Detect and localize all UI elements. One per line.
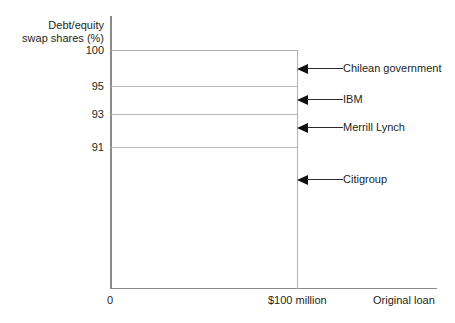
annotation-label: Merrill Lynch: [343, 121, 405, 134]
x-tick-hundred-million: $100 million: [268, 294, 327, 306]
gridline-91: [111, 147, 298, 148]
x-axis-line: [110, 288, 437, 289]
annotation-label: Chilean government: [343, 62, 441, 75]
x-axis-title: Original loan: [373, 294, 435, 306]
x-tick-zero: 0: [107, 294, 113, 306]
y-tick-label-100: 100: [4, 45, 104, 56]
chart-figure: Debt/equity swap shares (%) 100959391 0 …: [0, 0, 455, 323]
leader-line: [307, 127, 343, 128]
y-tick-label-91: 91: [4, 142, 104, 153]
gridline-95: [111, 86, 298, 87]
y-axis-ticks: 100959391: [0, 0, 104, 323]
annotation-label: IBM: [343, 93, 363, 106]
leader-line: [307, 68, 343, 69]
y-axis-line: [110, 16, 112, 289]
y-tick-label-95: 95: [4, 81, 104, 92]
gridline-93: [111, 114, 298, 115]
hundred-million-boundary-line: [297, 50, 298, 289]
gridline-100: [111, 50, 298, 51]
leader-line: [307, 99, 343, 100]
annotation-label: Citigroup: [343, 173, 387, 186]
y-tick-label-93: 93: [4, 109, 104, 120]
leader-line: [307, 179, 343, 180]
